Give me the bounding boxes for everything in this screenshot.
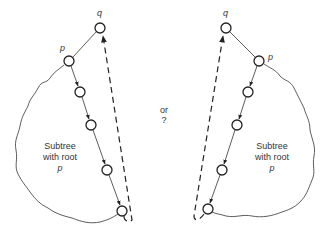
- right-node-p: [254, 56, 264, 66]
- right-figure: q p Subtree with root p: [194, 8, 315, 220]
- left-thread-dashed: [103, 36, 132, 221]
- left-node-4: [117, 206, 127, 216]
- left-node-2: [86, 120, 96, 130]
- right-subtree-label-1: Subtree: [256, 141, 288, 151]
- right-subtree-label-2: with root: [254, 152, 290, 162]
- left-node-1: [75, 87, 85, 97]
- right-node-1: [243, 87, 253, 97]
- right-node-q: [221, 23, 231, 33]
- left-subtree-label-3: p: [56, 163, 62, 173]
- right-p-label: p: [267, 52, 273, 62]
- or-text: or: [160, 105, 168, 115]
- right-node-3: [217, 165, 227, 175]
- right-thread-dashed: [194, 36, 223, 220]
- left-subtree-label-2: with root: [42, 152, 78, 162]
- left-node-q: [95, 23, 105, 33]
- left-node-3: [102, 165, 112, 175]
- question-text: ?: [161, 115, 166, 125]
- left-figure: q p Subtree with root p: [15, 8, 132, 223]
- right-node-4: [203, 204, 213, 214]
- left-q-label: q: [97, 8, 102, 18]
- left-p-label: p: [59, 43, 65, 53]
- left-node-p: [64, 56, 74, 66]
- left-subtree-label-1: Subtree: [44, 141, 76, 151]
- right-q-label: q: [223, 8, 228, 18]
- right-node-2: [232, 120, 242, 130]
- right-subtree-label-3: p: [268, 163, 274, 173]
- tree-diagram: q p Subtree with root p or ? q p Subtree…: [0, 0, 329, 236]
